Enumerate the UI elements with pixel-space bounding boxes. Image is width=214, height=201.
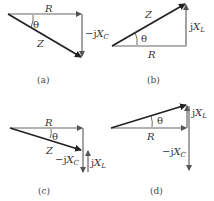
theta-arc [151,116,152,127]
caption-c: (c) [38,186,50,196]
theta-label: θ [141,33,147,44]
z-label: Z [45,145,54,156]
z-label: Z [144,9,153,20]
panel-c: R θ Z −jXC jXL (c) [10,117,106,196]
neg-jxc-label: −jXC [162,146,187,159]
theta-label: θ [157,115,163,126]
jxl-label: jXL [90,157,106,170]
neg-jxc-label: −jXC [55,154,80,167]
r-label: R [44,117,53,128]
r-label: R [44,3,53,14]
theta-arc [135,32,137,45]
caption-a: (a) [37,75,49,85]
z-label: Z [36,38,45,49]
panel-a: R θ Z −jXC (a) [8,3,110,85]
panel-d: θ R jXL −jXC (d) [111,105,207,196]
neg-jxc-label: −jXC [85,28,110,41]
r-label: R [147,49,156,60]
jxl-label: jXL [191,107,207,120]
theta-label: θ [33,19,39,30]
caption-d: (d) [150,186,163,196]
r-label: R [146,131,155,142]
z-vector [111,105,186,128]
jxl-label: jXL [189,21,205,34]
z-vector [8,14,81,57]
caption-b: (b) [147,75,160,85]
impedance-triangles-diagram: R θ Z −jXC (a) θ R Z jXL (b) R θ Z −jXC … [0,0,214,201]
theta-label: θ [52,131,58,142]
panel-b: θ R Z jXL (b) [112,4,205,85]
